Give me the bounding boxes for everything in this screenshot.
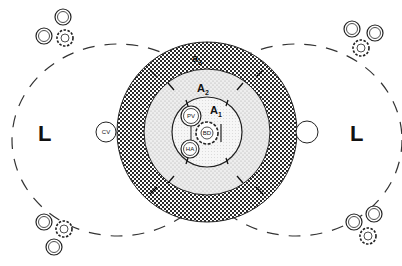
corner-triad-top-right <box>344 21 383 56</box>
hepatic-artery-icon: HA <box>181 140 199 158</box>
portal-vein-icon: PV <box>181 106 201 126</box>
lobule-right-label: L <box>350 121 363 146</box>
lobule-left-label: L <box>38 121 51 146</box>
bile-duct-icon: BD <box>196 122 218 144</box>
hepatic-artery-label: HA <box>186 146 194 152</box>
central-vein-right-icon <box>296 121 318 143</box>
central-vein-label: CV <box>102 129 110 135</box>
corner-triad-bottom-left <box>36 214 72 255</box>
corner-triad-bottom-right <box>346 206 382 244</box>
central-vein-left-icon: CV <box>96 122 116 142</box>
portal-vein-label: PV <box>187 113 195 119</box>
liver-acinus-diagram: a3 A2 A1 PV HA BD CV L L <box>0 0 402 266</box>
bile-duct-label: BD <box>203 130 212 136</box>
corner-triad-top-left <box>36 9 73 46</box>
